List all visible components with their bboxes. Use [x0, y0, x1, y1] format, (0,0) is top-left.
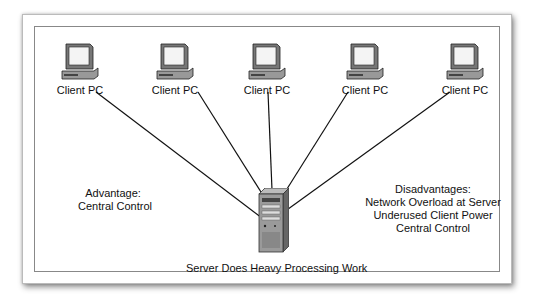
disadvantage-item: Network Overload at Server — [358, 196, 508, 209]
client-pc — [345, 42, 385, 82]
advantage-block: Advantage: Central Control — [78, 187, 148, 213]
disadvantages-title: Disadvantages: — [358, 183, 508, 196]
disadvantage-item: Central Control — [358, 222, 508, 235]
client-pc-label: Client PC — [330, 84, 400, 97]
client-pc — [60, 42, 100, 82]
computer-icon — [445, 42, 485, 82]
client-pc-label: Client PC — [45, 84, 115, 97]
disadvantages-block: Disadvantages: Network Overload at Serve… — [358, 183, 508, 235]
client-pc — [155, 42, 195, 82]
client-pc-label: Client PC — [430, 84, 500, 97]
client-pc — [445, 42, 485, 82]
computer-icon — [155, 42, 195, 82]
computer-icon — [60, 42, 100, 82]
client-pc-label: Client PC — [232, 84, 302, 97]
advantage-item: Central Control — [78, 200, 148, 213]
computer-icon — [247, 42, 287, 82]
server-icon — [255, 188, 289, 254]
computer-icon — [345, 42, 385, 82]
client-pc-label: Client PC — [140, 84, 210, 97]
disadvantage-item: Underused Client Power — [358, 209, 508, 222]
client-pc — [247, 42, 287, 82]
server-label: Server Does Heavy Processing Work — [186, 262, 356, 275]
advantage-title: Advantage: — [78, 187, 148, 200]
